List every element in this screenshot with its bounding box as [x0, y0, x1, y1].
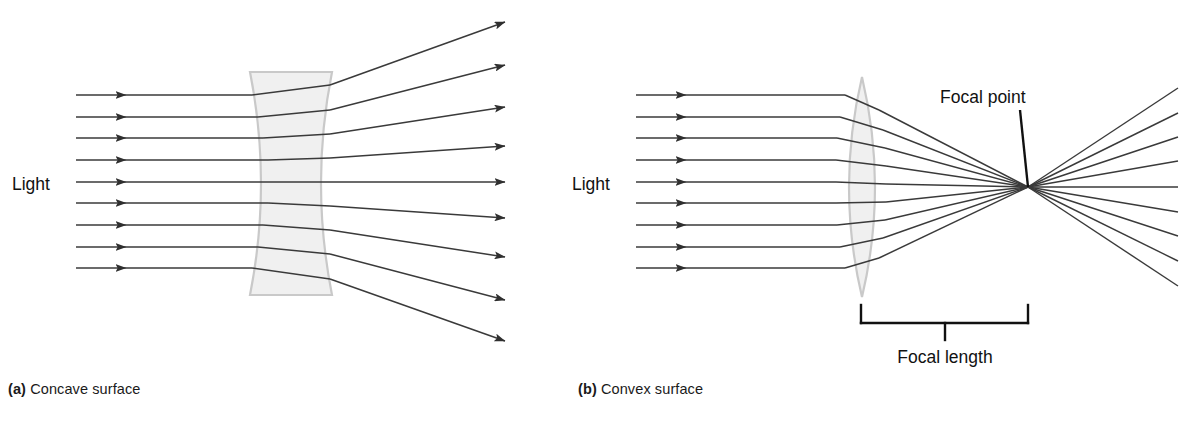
post-focal-ray: [1028, 187, 1178, 286]
convex-lens: [849, 77, 875, 297]
post-focal-ray: [1028, 187, 1178, 261]
converging-ray: [885, 148, 1028, 187]
diverging-ray: [330, 206, 505, 218]
post-focal-rays-b: [1028, 88, 1178, 286]
caption-panel-b: (b) Convex surface: [578, 381, 703, 397]
converging-ray: [879, 187, 1028, 258]
diverging-ray: [330, 22, 505, 85]
diverging-ray: [330, 254, 505, 300]
focal-length-label: Focal length: [897, 347, 992, 367]
caption-tag-b: (b): [578, 381, 597, 397]
diverging-ray: [330, 65, 505, 110]
incoming-rays-b: [636, 95, 845, 268]
diverging-ray: [330, 230, 505, 257]
concave-lens: [250, 72, 332, 295]
diverging-ray: [330, 107, 505, 134]
panel-b-convex: Focal point Focal length Light: [572, 77, 1178, 367]
light-label-b: Light: [572, 174, 610, 194]
converging-ray: [885, 187, 1028, 220]
post-focal-ray: [1028, 113, 1178, 187]
optics-diagram: Light: [0, 0, 1190, 429]
caption-text-a: Concave surface: [30, 381, 140, 397]
converging-ray: [883, 130, 1028, 187]
focal-length-bracket: [861, 305, 1028, 340]
caption-text-b: Convex surface: [601, 381, 703, 397]
post-focal-ray: [1028, 88, 1178, 187]
diverging-ray: [330, 279, 505, 341]
post-focal-ray: [1028, 187, 1178, 236]
caption-panel-a: (a) Concave surface: [8, 381, 140, 397]
focal-point-label: Focal point: [940, 87, 1026, 107]
focal-point-leader-line: [1020, 110, 1028, 187]
concave-lens-body: [250, 72, 332, 295]
outgoing-rays-a: [330, 22, 505, 341]
convex-lens-body: [849, 77, 875, 297]
converging-rays-b: [879, 110, 1028, 258]
post-focal-ray: [1028, 137, 1178, 187]
light-label-a: Light: [12, 174, 50, 194]
caption-tag-a: (a): [8, 381, 26, 397]
diverging-ray: [330, 146, 505, 158]
incoming-rays-a: [76, 95, 270, 268]
post-focal-ray: [1028, 161, 1178, 187]
post-focal-ray: [1028, 187, 1178, 212]
panel-a-concave: Light: [12, 22, 505, 341]
